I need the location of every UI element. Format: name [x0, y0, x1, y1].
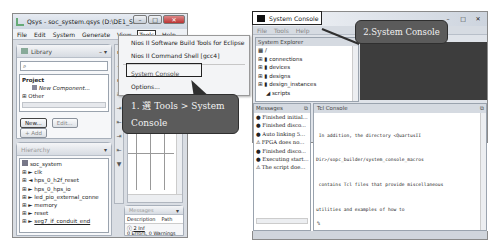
tree-item-scripts[interactable]: ◢ scripts: [258, 89, 358, 98]
panel-menu-icon[interactable]: ▾: [104, 146, 107, 153]
panel-menu-icon[interactable]: – ▾: [99, 48, 107, 55]
callout-step-2: 2.System Console: [355, 20, 448, 44]
add-button[interactable]: + Add: [20, 128, 47, 138]
sc-window-controls: – □ ✕: [441, 15, 485, 24]
menu-generate[interactable]: Generate: [81, 31, 111, 38]
tree-item[interactable]: ⊞ ► seg7_if_conduit_end: [22, 217, 106, 225]
library-tree[interactable]: Project New Component... ⊞ Other: [19, 74, 109, 112]
messages-tab[interactable]: Messages ▾: [125, 206, 183, 215]
new-button[interactable]: New...: [20, 118, 47, 128]
library-tab[interactable]: Library – ▾: [17, 45, 111, 58]
menu-file[interactable]: File: [16, 31, 28, 38]
warning-icon: ⚠: [256, 139, 260, 145]
tree-item-designs[interactable]: ⊞ ▮ designs: [258, 72, 358, 81]
menu-help[interactable]: Help: [295, 27, 311, 34]
warning-icon: ⚠: [256, 164, 260, 170]
tree-item[interactable]: ⊞ ► memory: [22, 201, 106, 209]
toolbar-icon[interactable]: ⇥: [115, 129, 123, 143]
library-icon: [21, 48, 28, 54]
message-item[interactable]: ● Executing start...: [256, 155, 310, 163]
tree-item[interactable]: ⊞ ► hps_0_hps_io: [22, 185, 106, 193]
message-item[interactable]: ● Finished initial...: [256, 113, 310, 121]
tree-item[interactable]: soc_system: [22, 160, 106, 168]
system-console-dark-area: [360, 42, 487, 100]
hierarchy-tree[interactable]: soc_system ⊞ ► clk ⊞ ◄ hps_0_h2f_reset ⊞…: [19, 158, 109, 233]
tree-item-design-instances[interactable]: ⊞ ▮ design_instances: [258, 80, 358, 89]
sc-messages-panel: Messages ⧉ ● Finished initial... ● Finis…: [253, 103, 311, 231]
menu-edit[interactable]: Edit: [33, 31, 47, 38]
message-item[interactable]: ● Finished disco...: [256, 121, 310, 129]
filter-icon[interactable]: ▼: [115, 157, 123, 171]
tree-item-other[interactable]: ⊞ Other: [22, 92, 106, 100]
maximize-button[interactable]: □: [148, 15, 162, 24]
message-item[interactable]: ● Auto linking 5...: [256, 130, 310, 138]
tcl-prompt[interactable]: %: [317, 220, 320, 226]
messages-header: Description Path: [125, 215, 183, 224]
menu-tools[interactable]: Tools: [273, 27, 290, 34]
tree-item[interactable]: ⊞ ► led_pio_external_conne: [22, 193, 106, 201]
close-button[interactable]: ✕: [163, 15, 185, 24]
info-icon: ●: [256, 114, 261, 120]
hierarchy-panel: Hierarchy ▾ soc_system ⊞ ► clk ⊞ ◄ hps_0…: [16, 142, 112, 236]
tcl-vscrollbar[interactable]: [480, 113, 486, 230]
graph-hscrollbar[interactable]: [128, 194, 182, 202]
menu-item-nios-sbt[interactable]: Nios II Software Build Tools for Eclipse: [119, 36, 249, 49]
folder-icon: ▦: [258, 47, 265, 53]
qsys-title: Qsys - soc_system.qsys (D:\DE1_So...: [27, 18, 143, 25]
tree-item[interactable]: ⊞ ◄ hps_0_h2f_reset: [22, 176, 106, 184]
hierarchy-tab[interactable]: Hierarchy ▾: [17, 143, 111, 156]
library-panel: Library – ▾ ⌕ Project New Component... ⊞…: [16, 44, 112, 139]
menu-system[interactable]: System: [52, 31, 76, 38]
messages-status: 0 Errors, 0 Warnings: [125, 231, 183, 236]
info-icon: ●: [256, 131, 261, 137]
info-icon: ●: [256, 156, 261, 162]
tree-item-devices[interactable]: ⊞ ▮ devices: [258, 63, 358, 72]
qsys-app-icon: [16, 18, 24, 26]
explorer-vscrollbar[interactable]: [352, 46, 358, 101]
tree-item-connections[interactable]: ⊞ ▮ connections: [258, 55, 358, 64]
column-path[interactable]: Path: [161, 216, 172, 222]
tree-item[interactable]: ⊞ ► clk: [22, 168, 106, 176]
callout-step-1: 1. 選 Tools > System Console: [122, 94, 239, 134]
tree-item-project[interactable]: Project: [22, 76, 106, 84]
info-icon: ●: [256, 122, 261, 128]
tree-item-root[interactable]: ▦ /: [258, 46, 358, 55]
maximize-panel-icon[interactable]: ⧉: [480, 104, 484, 113]
system-explorer-panel: System Explorer ▦ / ⊞ ▮ connections ⊞ ▮ …: [255, 37, 359, 102]
qsys-messages-panel: Messages ▾ Description Path ⓘ 2 Inf 0 Er…: [124, 205, 184, 236]
library-search-input[interactable]: ⌕: [20, 61, 108, 71]
column-description[interactable]: Description: [127, 216, 155, 222]
close-button[interactable]: ✕: [471, 15, 485, 24]
messages-hscrollbar[interactable]: [256, 218, 308, 224]
message-item[interactable]: ● Finished disco...: [256, 147, 310, 155]
minimize-button[interactable]: –: [133, 15, 147, 24]
system-console-highlight-box: [126, 63, 202, 77]
tcl-console-panel: Tcl Console ⧉ In addition, the directory…: [313, 103, 487, 231]
component-icon: [32, 85, 37, 90]
menu-file[interactable]: File: [256, 27, 268, 34]
system-console-title-highlight: System Console: [252, 11, 322, 25]
library-hscrollbar[interactable]: [22, 102, 106, 108]
system-icon: [22, 160, 28, 166]
system-explorer-title: System Explorer: [256, 38, 358, 46]
sc-bottom-bar: [252, 231, 488, 240]
message-item[interactable]: ⚠ The script doe...: [256, 163, 310, 171]
menu-item-nios-shell[interactable]: Nios II Command Shell [gcc4]: [119, 49, 249, 62]
info-icon: ●: [256, 148, 261, 154]
maximize-button[interactable]: □: [456, 15, 470, 24]
panel-menu-icon[interactable]: ▾: [176, 207, 179, 214]
messages-row[interactable]: ⓘ 2 Inf: [125, 224, 183, 231]
qsys-window-controls: – □ ✕: [133, 15, 185, 24]
message-item[interactable]: ⚠ FPGA does no...: [256, 138, 310, 146]
console-app-icon: [257, 15, 265, 22]
tree-item-new-component[interactable]: New Component...: [22, 84, 106, 92]
library-buttons: New... Edit... + Add: [17, 114, 111, 142]
tree-item[interactable]: ⊞ ► reset: [22, 209, 106, 217]
search-icon: ⌕: [23, 62, 26, 69]
maximize-panel-icon[interactable]: ⧉: [304, 104, 308, 113]
menu-item-options[interactable]: Options...: [119, 80, 249, 93]
edit-button[interactable]: Edit...: [52, 118, 78, 128]
toolbar-icon[interactable]: ⇤: [115, 143, 123, 157]
